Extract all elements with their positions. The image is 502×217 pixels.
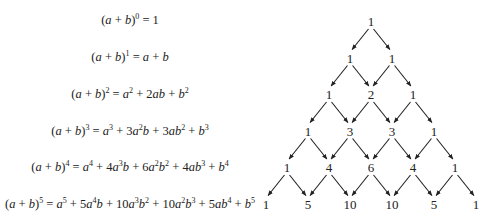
- arrow-icon: [331, 139, 347, 160]
- arrow-icon: [332, 175, 348, 196]
- pascal-triangle: 11112113311464115101051: [0, 0, 502, 217]
- triangle-cell: 1: [410, 87, 417, 102]
- triangle-cell: 1: [326, 87, 333, 102]
- triangle-cell: 3: [389, 124, 396, 139]
- arrow-icon: [416, 102, 432, 123]
- arrow-icon: [289, 139, 305, 160]
- triangle-cell: 2: [368, 87, 375, 102]
- arrow-icon: [352, 175, 368, 196]
- arrow-icon: [331, 66, 347, 87]
- arrow-icon: [290, 175, 306, 196]
- arrow-icon: [310, 102, 326, 123]
- arrow-icon: [394, 102, 410, 123]
- triangle-cell: 1: [263, 197, 270, 212]
- triangle-cell: 10: [344, 197, 357, 212]
- arrow-icon: [268, 175, 284, 196]
- triangle-cell: 5: [305, 197, 312, 212]
- arrow-icon: [373, 139, 389, 160]
- arrow-icon: [353, 139, 369, 160]
- arrow-icon: [374, 175, 390, 196]
- arrow-icon: [458, 175, 474, 196]
- arrow-icon: [394, 175, 410, 196]
- triangle-cell: 4: [410, 160, 417, 175]
- arrow-icon: [352, 29, 368, 50]
- arrow-icon: [310, 175, 326, 196]
- triangle-cell: 6: [368, 160, 375, 175]
- arrow-icon: [332, 102, 348, 123]
- arrow-icon: [437, 139, 453, 160]
- triangle-cell: 1: [347, 51, 354, 66]
- triangle-cell: 4: [326, 160, 333, 175]
- triangle-cell: 1: [452, 160, 459, 175]
- triangle-cell: 5: [431, 197, 438, 212]
- triangle-cell: 1: [368, 14, 375, 29]
- arrow-icon: [374, 102, 390, 123]
- arrow-icon: [373, 66, 389, 87]
- arrow-icon: [353, 66, 369, 87]
- triangle-cell: 1: [431, 124, 438, 139]
- arrow-icon: [395, 139, 411, 160]
- triangle-cell: 1: [473, 197, 480, 212]
- triangle-cell: 1: [389, 51, 396, 66]
- arrow-icon: [436, 175, 452, 196]
- arrow-icon: [374, 29, 390, 50]
- triangle-cell: 1: [305, 124, 312, 139]
- arrow-icon: [416, 175, 432, 196]
- triangle-cell: 3: [347, 124, 354, 139]
- triangle-cell: 10: [386, 197, 399, 212]
- arrow-icon: [415, 139, 431, 160]
- triangle-cell: 1: [284, 160, 291, 175]
- arrow-icon: [395, 66, 411, 87]
- arrow-icon: [352, 102, 368, 123]
- arrow-icon: [311, 139, 327, 160]
